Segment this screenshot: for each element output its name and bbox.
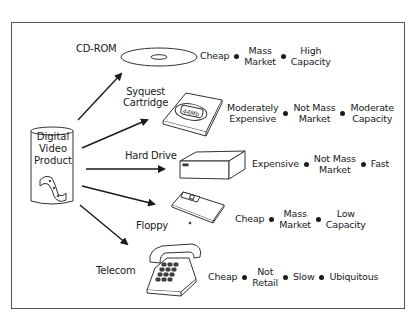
arrow-to-syquest xyxy=(82,120,147,148)
cartridge-icon: 44Mb xyxy=(163,93,222,136)
attribute: Not MassMarket xyxy=(293,103,335,124)
bullet-icon xyxy=(304,162,309,167)
harddrive-attributes: Expensive Not MassMarket Fast xyxy=(252,154,389,175)
attribute: Cheap xyxy=(200,51,229,62)
attribute: ModeratelyExpensive xyxy=(227,103,278,124)
attribute: Fast xyxy=(371,159,389,170)
telecom-attributes: Cheap NotRetail Slow Ubiquitous xyxy=(208,267,378,288)
bullet-icon xyxy=(340,111,345,116)
attribute: MassMarket xyxy=(244,46,275,67)
channel-label-cdrom: CD-ROM xyxy=(76,43,117,54)
channel-label-floppy: Floppy xyxy=(136,220,168,231)
channel-label-line: Cartridge xyxy=(123,97,168,108)
attribute: ModerateCapacity xyxy=(350,103,394,124)
cdrom-attributes: Cheap MassMarket HighCapacity xyxy=(200,46,331,67)
arrow-to-floppy xyxy=(82,186,154,204)
arrow-to-telecom xyxy=(80,205,127,244)
bullet-icon xyxy=(234,54,239,59)
channel-label-syquest: Syquest Cartridge xyxy=(123,86,168,108)
floppy-disk-icon xyxy=(172,192,224,224)
bullet-icon xyxy=(361,162,366,167)
channel-label-harddrive: Hard Drive xyxy=(125,150,177,161)
source-label-line: Digital xyxy=(31,131,75,143)
attribute: Cheap xyxy=(208,272,237,283)
bullet-icon xyxy=(319,275,324,280)
attribute: Not MassMarket xyxy=(314,154,356,175)
channel-label-telecom: Telecom xyxy=(96,265,135,276)
bullet-icon xyxy=(283,111,288,116)
source-label-line: Video xyxy=(31,143,75,155)
telephone-icon xyxy=(147,244,201,296)
attribute: Slow xyxy=(293,272,314,283)
attribute: NotRetail xyxy=(252,267,278,288)
bullet-icon xyxy=(242,275,247,280)
attribute: MassMarket xyxy=(279,209,310,230)
attribute: Expensive xyxy=(252,159,299,170)
bullet-icon xyxy=(281,54,286,59)
cd-disc-icon xyxy=(121,48,197,66)
bullet-icon xyxy=(269,217,274,222)
floppy-attributes: Cheap MassMarket LowCapacity xyxy=(235,209,366,230)
source-label-line: Product xyxy=(31,155,75,167)
syquest-attributes: ModeratelyExpensive Not MassMarket Moder… xyxy=(227,103,394,124)
attribute: Ubiquitous xyxy=(329,272,378,283)
hard-drive-icon xyxy=(180,151,245,179)
arrow-to-cdrom xyxy=(78,74,121,120)
attribute: LowCapacity xyxy=(326,209,366,230)
attribute: HighCapacity xyxy=(291,46,331,67)
bullet-icon xyxy=(283,275,288,280)
source-label: Digital Video Product xyxy=(31,131,75,167)
channel-label-line: Syquest xyxy=(123,86,168,97)
bullet-icon xyxy=(316,217,321,222)
attribute: Cheap xyxy=(235,214,264,225)
